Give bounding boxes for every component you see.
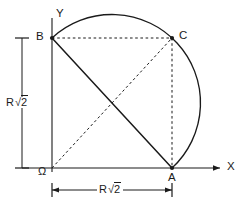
- point-label-b: B: [36, 31, 44, 43]
- horizontal-dimension-radicand: 2: [114, 182, 121, 195]
- point-label-a: A: [168, 172, 176, 184]
- x-axis-arrowhead: [213, 165, 220, 171]
- horizontal-dimension-radical: √2: [107, 184, 121, 195]
- vertical-dimension-prefix: R: [6, 96, 14, 108]
- origin-label: Ω: [38, 166, 46, 177]
- vertical-dimension-radical: √2: [14, 97, 28, 108]
- geometry-figure: Y X Ω B C A R√2 R√2: [0, 0, 250, 212]
- point-marker-a: [170, 166, 174, 170]
- vertical-dimension-radicand: 2: [21, 95, 28, 108]
- vertical-dimension-label: R√2: [4, 97, 30, 108]
- point-marker-c: [170, 36, 174, 40]
- horizontal-dimension-arrow-left: [52, 188, 59, 193]
- x-axis-label: X: [227, 161, 235, 173]
- point-label-c: C: [179, 30, 187, 42]
- point-marker-b: [50, 36, 54, 40]
- horizontal-dimension-label: R√2: [97, 184, 123, 195]
- horizontal-dimension-arrow-right: [165, 188, 172, 193]
- y-axis-label: Y: [56, 8, 64, 20]
- horizontal-dimension-prefix: R: [99, 183, 107, 195]
